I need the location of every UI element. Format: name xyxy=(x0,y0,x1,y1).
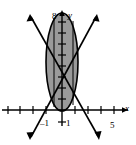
y-axis-label: y xyxy=(68,11,72,20)
x-tick-label-1: 1 xyxy=(66,119,71,128)
y-tick-label-8: 8 xyxy=(52,12,57,21)
x-tick-label-neg1: –1 xyxy=(40,119,49,128)
x-axis-label: x xyxy=(125,104,129,113)
x-tick-label-5: 5 xyxy=(110,121,115,130)
math-graph-figure: y x 8 –1 1 5 xyxy=(0,0,136,145)
